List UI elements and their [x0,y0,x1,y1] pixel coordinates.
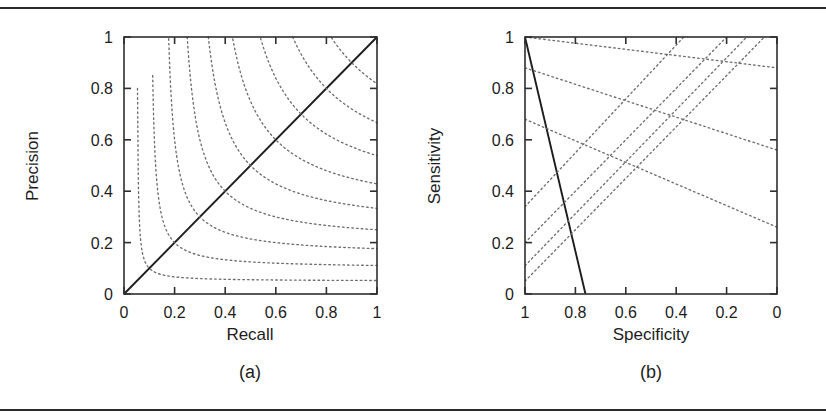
y-tick-label: 0.6 [91,132,113,149]
solid-line-0 [525,37,585,294]
x-tick-label: 0.4 [214,304,236,321]
panel-a-caption: (a) [239,362,261,382]
y-tick-label: 0.8 [492,80,514,97]
panel-b-y-axis-label: Sensitivity [425,127,444,204]
iso-line-7 [525,37,764,281]
panel-b-plot-area [525,37,777,294]
y-tick-label: 0.6 [492,132,514,149]
panel-b: 10.80.60.40.20 00.20.40.60.81 Specificit… [420,0,826,417]
panel-a: 00.20.40.60.81 00.20.40.60.81 Recall Pre… [0,0,420,417]
panel-b-frame [525,37,777,294]
x-tick-label: 0.6 [265,304,287,321]
iso-line-1 [137,88,377,280]
y-tick-label: 0.8 [91,80,113,97]
panel-b-caption: (b) [640,362,662,382]
iso-line-6 [525,37,747,266]
iso-line-2 [153,76,377,266]
y-tick-label: 1 [505,29,514,46]
x-tick-label: 0.2 [163,304,185,321]
iso-line-3 [525,119,777,227]
panel-a-plot-area [124,37,377,294]
x-tick-label: 0.2 [715,304,737,321]
y-tick-label: 0.2 [492,235,514,252]
iso-line-5 [525,37,727,243]
x-tick-label: 0 [773,304,782,321]
iso-line-4 [525,37,684,207]
panel-a-y-axis-label: Precision [23,131,42,201]
x-tick-label: 0 [120,304,129,321]
panel-b-x-tick-labels: 10.80.60.40.20 [521,304,782,321]
panel-b-svg: 10.80.60.40.20 00.20.40.60.81 Specificit… [420,0,826,417]
y-tick-label: 0.4 [91,183,113,200]
x-tick-label: 1 [521,304,530,321]
x-tick-label: 0.4 [665,304,687,321]
panel-b-x-axis-label: Specificity [613,325,690,344]
y-tick-label: 0.4 [492,183,514,200]
y-tick-label: 1 [104,29,113,46]
panel-a-x-axis-label: Recall [226,325,273,344]
x-tick-label: 1 [373,304,382,321]
panel-a-x-tick-labels: 00.20.40.60.81 [120,304,382,321]
iso-line-2 [525,68,777,150]
panel-a-svg: 00.20.40.60.81 00.20.40.60.81 Recall Pre… [0,0,420,417]
panel-b-y-tick-labels: 00.20.40.60.81 [492,29,514,303]
y-tick-label: 0 [104,286,113,303]
x-tick-label: 0.8 [564,304,586,321]
x-tick-label: 0.8 [315,304,337,321]
y-tick-label: 0.2 [91,235,113,252]
panel-b-ticks [525,37,777,294]
x-tick-label: 0.6 [615,304,637,321]
y-tick-label: 0 [505,286,514,303]
panel-a-y-tick-labels: 00.20.40.60.81 [91,29,113,303]
